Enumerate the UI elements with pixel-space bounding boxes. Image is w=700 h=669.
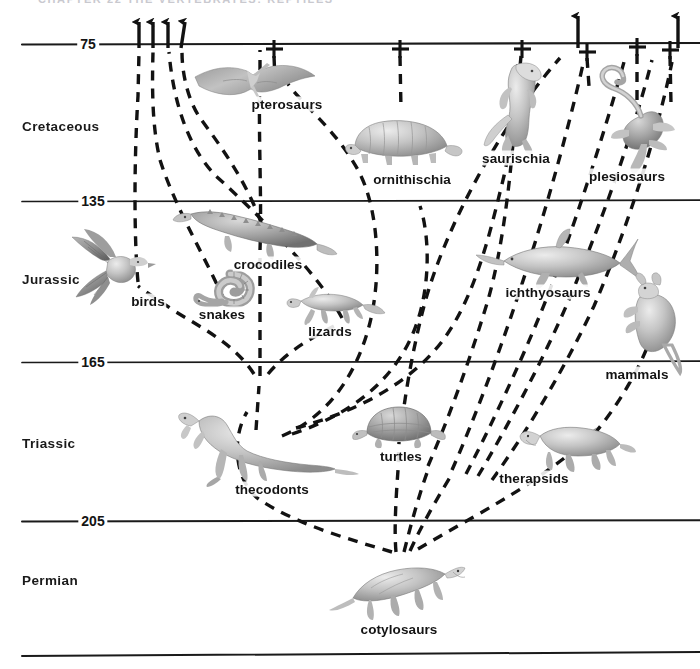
organism-plesiosaurs — [602, 68, 675, 174]
taxon-label-crocodiles: crocodiles — [233, 257, 304, 272]
organism-mammals — [624, 273, 681, 373]
taxon-label-turtles: turtles — [379, 449, 423, 464]
organism-crocodiles — [173, 209, 337, 260]
lineage-therapsids-to-mammals — [594, 340, 650, 434]
taxon-label-lizards: lizards — [307, 324, 352, 339]
rule-line-205 — [22, 520, 700, 521]
period-label-permian: Permian — [22, 573, 78, 588]
cross-plesiosaurs — [579, 43, 596, 61]
organism-therapsids — [520, 427, 636, 472]
organism-illustrations — [72, 63, 681, 620]
cross-pterosaurs — [266, 40, 283, 58]
taxon-label-thecodonts: thecodonts — [234, 482, 310, 497]
extinction-crosses — [266, 38, 679, 61]
period-label-jurassic: Jurassic — [22, 272, 80, 287]
lineage-cotylosaurs-to-saurischia-stem — [404, 470, 428, 552]
organism-saurischia — [484, 63, 541, 155]
stub-cross-b — [670, 56, 671, 104]
evolutionary-tree-figure: CHAPTER 22 THE VERTEBRATES: REPTILES — [0, 0, 700, 669]
period-label-cretaceous: Cretaceous — [22, 119, 100, 134]
organism-turtles — [353, 407, 446, 448]
age-label-165: 165 — [78, 354, 107, 370]
rule-line-base — [22, 652, 700, 656]
taxon-label-cotylosaurs: cotylosaurs — [360, 622, 439, 637]
taxon-label-ornithischia: ornithischia — [372, 172, 452, 187]
taxon-label-plesiosaurs: plesiosaurs — [588, 169, 666, 184]
lineage-thecodonts-to-node — [256, 386, 259, 430]
taxon-label-pterosaurs: pterosaurs — [251, 97, 324, 112]
taxon-label-ichthyosaurs: ichthyosaurs — [504, 285, 591, 300]
stub-plesiosaurs — [587, 58, 589, 86]
organism-cotylosaurs — [329, 567, 465, 620]
rule-line-75 — [22, 43, 700, 45]
period-label-triassic: Triassic — [22, 436, 76, 451]
taxon-label-therapsids: therapsids — [498, 471, 569, 486]
taxon-label-birds: birds — [130, 294, 166, 309]
taxon-label-snakes: snakes — [198, 307, 246, 322]
stub-ornithischia — [400, 56, 401, 110]
age-label-75: 75 — [77, 36, 99, 52]
lineage-cotylosaurs-to-plesio-stem — [410, 474, 452, 551]
rule-line-165 — [22, 361, 700, 362]
taxon-label-saurischia: saurischia — [481, 151, 551, 166]
taxon-label-mammals: mammals — [605, 367, 670, 382]
organism-snakes — [196, 271, 250, 305]
lineage-thecodonts-to-saurischia — [296, 64, 520, 428]
lineage-birds-survivor — [135, 52, 139, 282]
age-label-135: 135 — [78, 193, 107, 209]
rule-line-135 — [22, 200, 700, 201]
cross-unnamed-a — [629, 38, 646, 56]
age-label-205: 205 — [78, 513, 107, 529]
organism-ornithischia — [345, 121, 462, 165]
organism-thecodonts — [179, 413, 359, 487]
